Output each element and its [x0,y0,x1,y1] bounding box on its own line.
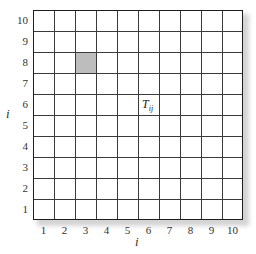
highlighted-cell [76,53,97,74]
x-tick-label: 3 [76,225,96,236]
grid-horizontal-line [34,115,242,116]
y-tick-label: 8 [12,57,28,68]
grid-horizontal-line [34,136,242,137]
x-tick-label: 1 [34,225,54,236]
y-tick-label: 5 [12,120,28,131]
y-tick-label: 3 [12,162,28,173]
y-tick-label: 2 [12,183,28,194]
x-tick-label: 2 [55,225,75,236]
grid-horizontal-line [34,52,242,53]
x-tick-label: 9 [202,225,222,236]
grid-horizontal-line [34,73,242,74]
y-tick-label: 10 [12,15,28,26]
x-axis-label: i [135,234,139,250]
x-tick-label: 10 [223,225,243,236]
x-tick-label: 7 [160,225,180,236]
y-tick-label: 6 [12,99,28,110]
grid-horizontal-line [34,157,242,158]
grid-horizontal-line [34,31,242,32]
x-tick-label: 8 [181,225,201,236]
grid-diagram: 12345678910 12345678910 i i Tij [0,0,256,254]
grid-horizontal-line [34,199,242,200]
y-tick-label: 7 [12,78,28,89]
cell-annotation-tij: Tij [142,97,153,113]
y-tick-label: 4 [12,141,28,152]
y-tick-label: 1 [12,204,28,215]
cell-annotation-subscript: ij [149,104,153,113]
matrix-grid [33,10,243,220]
cell-annotation-main: T [142,97,149,111]
x-tick-label: 6 [139,225,159,236]
grid-horizontal-line [34,94,242,95]
x-tick-label: 4 [97,225,117,236]
y-axis-label: i [6,106,10,122]
grid-horizontal-line [34,178,242,179]
y-tick-label: 9 [12,36,28,47]
